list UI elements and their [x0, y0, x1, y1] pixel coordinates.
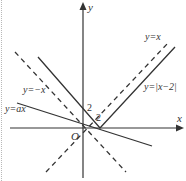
- x-axis-arrow-icon: [176, 125, 184, 132]
- y-tick-2-label: 2: [87, 102, 92, 113]
- x-axis-label: x: [176, 112, 182, 124]
- diagram-canvas: y x O 2 2 y=x y=−x y=|x−2| y=ax: [0, 0, 186, 181]
- label-y-eq-x: y=x: [144, 31, 161, 42]
- label-y-eq-abs-x-minus-2: y=|x−2|: [143, 81, 177, 92]
- label-y-eq-neg-x: y=−x: [22, 84, 46, 95]
- coordinate-plane: y x O 2 2 y=x y=−x y=|x−2| y=ax: [0, 0, 186, 181]
- curve-y-eq-x: [46, 43, 168, 172]
- y-axis: [80, 2, 87, 178]
- curve-y-eq-neg-x: [15, 52, 126, 172]
- label-y-eq-ax: y=ax: [4, 103, 26, 114]
- origin-label: O: [71, 130, 79, 142]
- x-tick-2-label: 2: [96, 112, 101, 123]
- y-axis-label: y: [87, 1, 93, 13]
- y-axis-arrow-icon: [80, 2, 87, 10]
